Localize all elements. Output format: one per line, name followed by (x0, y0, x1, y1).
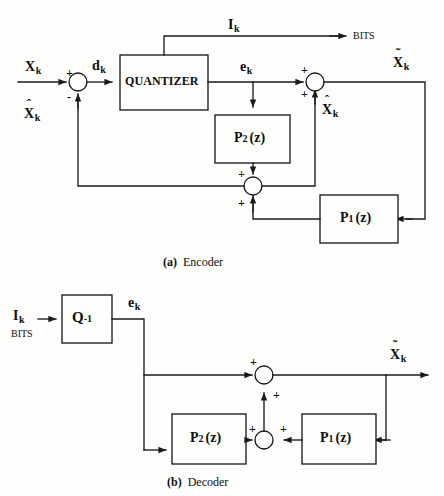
decoder-output-summer-node (255, 366, 273, 384)
encoder-p2-label: P2(z) (234, 131, 265, 145)
decoder-wire-ek-trunk (112, 319, 144, 450)
encoder-reconstruct-summer-sign-plus-bottom: + (301, 88, 308, 100)
encoder-predictor-summer-node (244, 177, 262, 195)
decoder-wire-xtilde-feedback (382, 375, 386, 440)
figure-canvas: Xk ̂Xk dk Ik BITS ek ̂Xk ˜Xk + - + + + +… (0, 0, 444, 496)
decoder-predictor-summer-sign-plus-right: + (280, 423, 287, 435)
encoder-quantizer-label: QUANTIZER (125, 75, 199, 87)
encoder-predictor-summer-sign-plus-top: + (238, 168, 245, 180)
decoder-label-ik-input: Ik (13, 309, 25, 325)
decoder-predictor-summer-sign-plus-left: + (249, 423, 256, 435)
encoder-reconstruct-summer-node (306, 73, 324, 91)
encoder-predictor-summer-sign-plus-bottom: + (238, 197, 245, 209)
decoder-p1-label: P1(z) (320, 431, 351, 445)
encoder-label-ik: Ik (228, 18, 240, 34)
encoder-input-summer-sign-minus: - (67, 91, 71, 103)
encoder-label-ek: ek (240, 60, 252, 76)
decoder-label-bits: BITS (11, 329, 33, 339)
encoder-reconstruct-summer-sign-plus-top: + (301, 64, 308, 76)
decoder-caption: (b) Decoder (167, 476, 228, 488)
encoder-label-x-hat-sum: ̂Xk (322, 103, 338, 119)
decoder-output-summer-sign-plus-stem: + (273, 389, 280, 401)
encoder-label-dk: dk (92, 59, 106, 75)
decoder-qinv-label: Q-1 (72, 310, 92, 325)
encoder-label-x-input: Xk (25, 60, 41, 76)
encoder-wire-p1-out (253, 204, 320, 219)
decoder-label-ek: ek (128, 296, 140, 312)
decoder-label-x-tilde-out: ˜Xk (390, 348, 406, 364)
encoder-label-bits: BITS (353, 31, 375, 41)
encoder-input-summer-sign-plus: + (66, 67, 73, 79)
encoder-wire-ik (164, 36, 340, 55)
encoder-p1-label: P1(z) (340, 211, 371, 225)
decoder-p2-label: P2(z) (190, 431, 221, 445)
encoder-caption: (a) Encoder (163, 256, 223, 268)
decoder-output-summer-sign-plus-top: + (250, 356, 257, 368)
encoder-label-x-tilde-out: ˜Xk (393, 56, 409, 72)
encoder-label-x-hat-feedback: ̂Xk (24, 107, 40, 123)
decoder-predictor-summer-node (255, 431, 273, 449)
